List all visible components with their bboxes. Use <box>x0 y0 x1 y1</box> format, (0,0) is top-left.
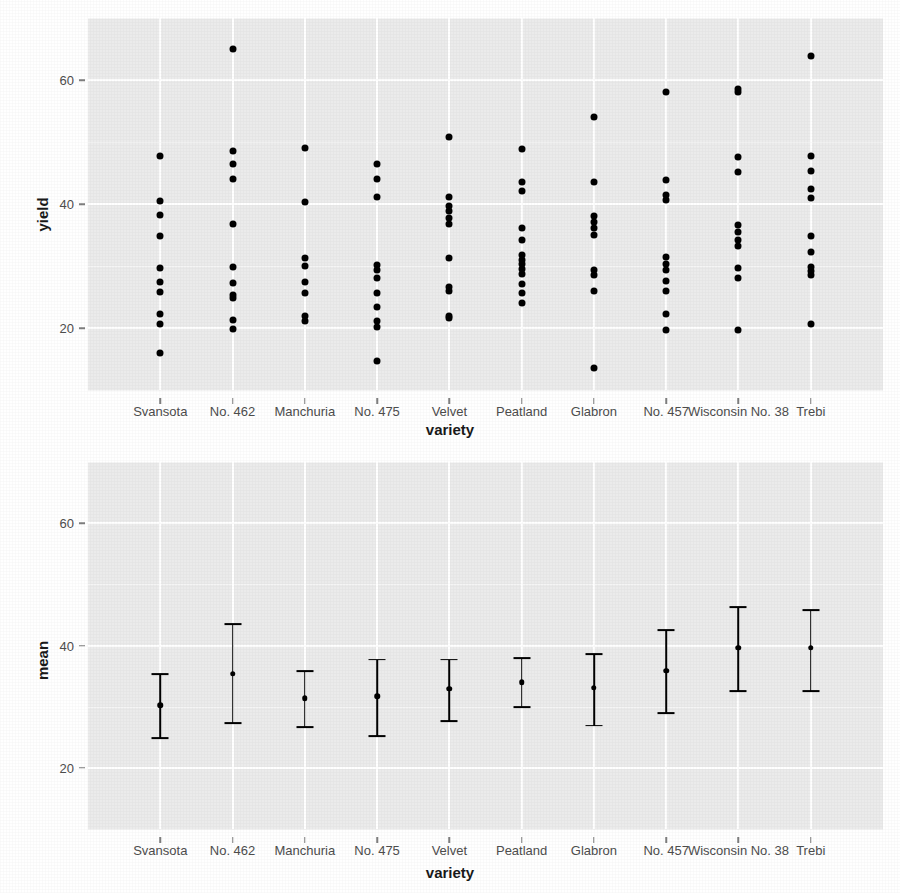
data-point <box>590 272 597 279</box>
error-bar-cap-upper <box>513 657 530 659</box>
y-tick-label: 20 <box>60 321 74 336</box>
data-point <box>446 221 453 228</box>
error-bar-cap-lower <box>658 712 675 714</box>
data-point <box>807 186 814 193</box>
data-point <box>807 168 814 175</box>
data-point <box>735 169 742 176</box>
gridline-minor-horizontal <box>88 829 883 830</box>
mean-point <box>663 668 669 674</box>
mean-point <box>158 703 164 709</box>
data-point <box>301 290 308 297</box>
gridline-major-vertical <box>521 18 523 390</box>
data-point <box>518 187 525 194</box>
error-bar-cap-upper <box>585 653 602 655</box>
x-tick-label-manchuria: Manchuria <box>274 404 335 419</box>
data-point <box>301 318 308 325</box>
x-tick-label-svansota: Svansota <box>133 843 187 858</box>
gridline-major-vertical <box>810 18 812 390</box>
gridline-minor-horizontal <box>88 266 883 267</box>
gridline-minor-horizontal <box>88 707 883 708</box>
data-point <box>518 178 525 185</box>
x-tick-label-peatland: Peatland <box>496 404 547 419</box>
data-point <box>590 288 597 295</box>
x-tick-label-trebi: Trebi <box>796 404 825 419</box>
error-bar-cap-lower <box>152 737 169 739</box>
mean-point <box>374 694 380 700</box>
data-point <box>301 279 308 286</box>
gridline-major-horizontal <box>88 79 883 81</box>
gridline-major-vertical <box>448 462 450 829</box>
data-point <box>663 287 670 294</box>
x-tick-label-velvet: Velvet <box>432 843 467 858</box>
gridline-major-vertical <box>665 18 667 390</box>
x-tick-label-manchuria: Manchuria <box>274 843 335 858</box>
data-point <box>446 288 453 295</box>
data-point <box>374 193 381 200</box>
data-point <box>735 265 742 272</box>
error-bar-cap-upper <box>369 659 386 661</box>
data-point <box>229 280 236 287</box>
y-tick-label: 60 <box>60 73 74 88</box>
data-point <box>518 271 525 278</box>
data-point <box>446 315 453 322</box>
data-point <box>157 211 164 218</box>
x-tick-label-glabron: Glabron <box>571 404 617 419</box>
y-tick-mark <box>79 79 85 81</box>
data-point <box>518 299 525 306</box>
data-point <box>374 324 381 331</box>
gridline-major-vertical <box>737 18 739 390</box>
gridline-major-vertical <box>304 462 306 829</box>
data-point <box>301 263 308 270</box>
gridline-minor-horizontal <box>88 390 883 391</box>
data-point <box>807 321 814 328</box>
data-point <box>157 289 164 296</box>
data-point <box>735 327 742 334</box>
data-point <box>807 271 814 278</box>
error-bar-cap-upper <box>658 629 675 631</box>
data-point <box>735 228 742 235</box>
gridline-major-horizontal <box>88 645 883 647</box>
error-bar-cap-lower <box>802 690 819 692</box>
y-tick-label: 40 <box>60 197 74 212</box>
gridline-major-vertical <box>593 462 595 829</box>
yield-axis-title-y: yield <box>34 185 51 245</box>
mean-point <box>519 679 525 685</box>
x-tick-label-glabron: Glabron <box>571 843 617 858</box>
gridline-minor-horizontal <box>88 18 883 19</box>
data-point <box>157 350 164 357</box>
data-point <box>663 277 670 284</box>
data-point <box>157 197 164 204</box>
gridline-major-horizontal <box>88 522 883 524</box>
data-point <box>807 194 814 201</box>
mean-plot-area <box>88 462 883 829</box>
data-point <box>663 327 670 334</box>
mean-point <box>736 645 742 651</box>
x-tick-label-wisconsin-no-38: Wisconsin No. 38 <box>688 404 789 419</box>
data-point <box>229 295 236 302</box>
data-point <box>807 153 814 160</box>
data-point <box>518 236 525 243</box>
error-bar-cap-upper <box>730 606 747 608</box>
data-point <box>590 224 597 231</box>
y-tick-label: 40 <box>60 638 74 653</box>
y-tick-mark <box>79 522 85 524</box>
mean-point <box>808 645 814 651</box>
data-point <box>374 303 381 310</box>
x-tick-label-peatland: Peatland <box>496 843 547 858</box>
data-point <box>229 46 236 53</box>
data-point <box>663 266 670 273</box>
mean-point <box>230 671 236 677</box>
data-point <box>374 289 381 296</box>
data-point <box>157 152 164 159</box>
gridline-major-vertical <box>593 18 595 390</box>
data-point <box>590 179 597 186</box>
x-tick-label-wisconsin-no-38: Wisconsin No. 38 <box>688 843 789 858</box>
x-tick-label-no-462: No. 462 <box>210 843 256 858</box>
error-bar-cap-lower <box>369 735 386 737</box>
data-point <box>663 88 670 95</box>
data-point <box>229 161 236 168</box>
error-bar-cap-lower <box>441 720 458 722</box>
gridline-major-vertical <box>376 462 378 829</box>
x-tick-label-no-457: No. 457 <box>643 404 689 419</box>
error-bar-cap-lower <box>224 722 241 724</box>
